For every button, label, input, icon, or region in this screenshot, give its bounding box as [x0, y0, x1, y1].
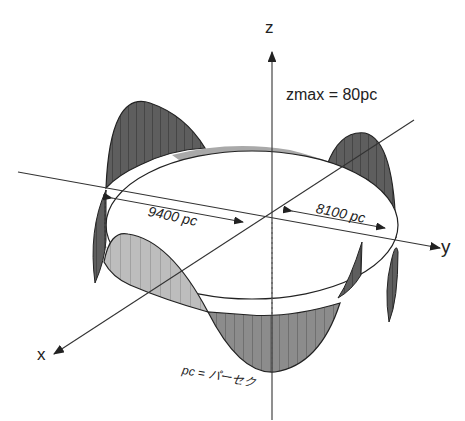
warp-lower-center-lobe	[208, 303, 340, 372]
warp-left-edge	[93, 190, 106, 283]
y-axis-label: y	[441, 236, 451, 258]
warped-disk-diagram	[0, 0, 465, 421]
zmax-annotation: zmax = 80pc	[286, 86, 377, 104]
warp-right-edge	[387, 248, 398, 322]
x-axis-label: x	[37, 345, 46, 365]
z-axis-label: z	[265, 18, 274, 38]
